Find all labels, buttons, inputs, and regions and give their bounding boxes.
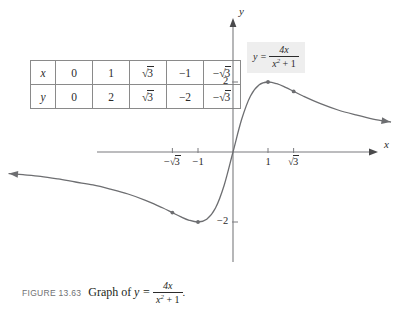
y-tick-label-0: 2: [223, 75, 228, 86]
curve-point-marker: [266, 80, 270, 84]
equation-fraction: 4x x2 + 1: [269, 45, 299, 70]
curve-point-marker: [170, 211, 174, 215]
equation-callout: y = 4x x2 + 1: [247, 42, 305, 73]
x-tick-label-2: 1: [266, 156, 271, 167]
figure-container: x 0 1 √3 −1 −√3 y 0 2 √3 −2 −√3 x y: [0, 0, 408, 318]
curve-right-arrowhead: [381, 117, 390, 124]
equation-lhs: y =: [253, 51, 267, 62]
graph-plot: [0, 0, 408, 318]
equation-numerator: 4x: [269, 45, 299, 57]
equation-denominator: x2 + 1: [269, 57, 299, 70]
caption-equation-lhs: y =: [134, 285, 150, 299]
axes-group: [97, 18, 378, 262]
x-tick-label-0: −√3: [164, 156, 181, 167]
caption-figure-number: FIGURE 13.63: [22, 288, 81, 298]
figure-caption: FIGURE 13.63Graph of y = 4x x2 + 1 .: [22, 281, 185, 306]
x-axis-label: x: [384, 138, 389, 150]
caption-text: Graph of: [88, 285, 131, 299]
x-tick-label-1: −1: [193, 156, 204, 167]
caption-numerator: 4x: [153, 281, 183, 293]
x-tick-label-3: √3: [288, 156, 299, 167]
caption-period: .: [183, 287, 186, 298]
curve-point-marker: [292, 89, 296, 93]
y-axis-label: y: [239, 5, 244, 17]
equation-denominator-rest: + 1: [280, 58, 296, 69]
caption-denominator: x2 + 1: [153, 293, 183, 306]
x-axis-arrowhead: [369, 149, 378, 156]
y-axis-arrowhead: [230, 18, 237, 27]
curve-point-marker: [196, 220, 200, 224]
y-tick-label-1: −2: [217, 215, 228, 226]
caption-fraction: 4x x2 + 1: [153, 281, 183, 306]
